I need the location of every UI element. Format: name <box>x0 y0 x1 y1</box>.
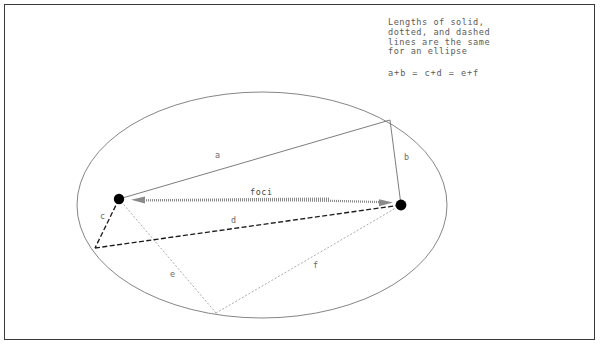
segment-e-line <box>119 199 216 313</box>
foci-label: foci <box>250 187 273 197</box>
segment-f-line <box>216 205 401 313</box>
segment-label-e: e <box>170 269 175 279</box>
segment-label-d: d <box>231 215 236 225</box>
focus-dot-right <box>396 200 407 211</box>
segment-d-line <box>95 205 401 248</box>
segment-label-f: f <box>313 260 318 270</box>
equation-text: a+b = c+d = e+f <box>388 68 479 78</box>
ellipse-outline <box>77 92 447 318</box>
explanatory-note: Lengths of solid, dotted, and dashed lin… <box>388 18 588 57</box>
foci-pointer-right <box>283 199 393 207</box>
figure-canvas: a b c d e f foci Lengths of solid, dotte… <box>0 0 601 346</box>
segment-b-line <box>390 120 401 205</box>
segment-label-a: a <box>215 150 220 160</box>
segment-label-c: c <box>100 211 105 221</box>
segment-c-line <box>95 199 119 248</box>
segment-label-b: b <box>404 152 409 162</box>
focus-dot-left <box>114 194 124 204</box>
